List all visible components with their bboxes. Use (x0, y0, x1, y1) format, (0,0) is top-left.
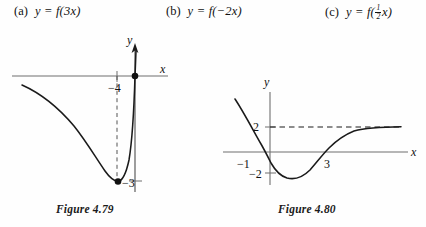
figure-4-80-panel: x y 2 −1 3 −2 (205, 60, 426, 200)
tick-label-minus-1: −1 (237, 157, 250, 171)
problem-lhs-c: y = (346, 5, 364, 19)
y-axis-label: y (263, 75, 270, 89)
tick-label-2: 2 (253, 120, 259, 134)
one-half-fraction: 12 (375, 4, 381, 20)
problem-label-c: (c) (325, 5, 339, 19)
tick-label-minus-4: −4 (108, 81, 121, 95)
y-axis-label: y (126, 33, 133, 47)
figure-4-80-graph: x y 2 −1 3 −2 (205, 60, 426, 200)
problem-expression-b: y = f(−2x) (188, 4, 242, 18)
problem-rhs-a: f(3x) (56, 4, 81, 18)
problem-rhs-c-suffix: x) (382, 5, 392, 19)
problem-expression-c: y = f(12x) (346, 5, 392, 19)
tick-label-3: 3 (324, 157, 330, 171)
x-axis-label: x (159, 62, 166, 76)
x-axis-label: x (410, 145, 417, 159)
problem-item-b: (b)y = f(−2x) (166, 4, 242, 18)
figure-4-79-graph: x y −4 −3 (0, 30, 200, 200)
origin-point-marker (132, 73, 139, 80)
fraction-denominator: 2 (375, 12, 381, 21)
problem-expression-a: y = f(3x) (35, 4, 81, 18)
problem-list: (a)y = f(3x) (b)y = f(−2x) (c)y = f(12x) (0, 0, 426, 26)
problem-label-a: (a) (14, 4, 28, 18)
figure-4-79-panel: x y −4 −3 (0, 30, 200, 200)
figure-4-79-caption: Figure 4.79 (56, 203, 114, 215)
problem-rhs-b: f(−2x) (209, 4, 242, 18)
problem-lhs-a: y = (35, 4, 53, 18)
problem-label-b: (b) (166, 4, 181, 18)
curve-f (22, 51, 136, 182)
problem-lhs-b: y = (188, 4, 206, 18)
problem-item-c: (c)y = f(12x) (325, 4, 392, 20)
fraction-numerator: 1 (375, 4, 381, 12)
tick-label-minus-3: −3 (122, 176, 135, 190)
figure-page: (a)y = f(3x) (b)y = f(−2x) (c)y = f(12x) (0, 0, 426, 227)
figure-4-80-caption: Figure 4.80 (278, 203, 336, 215)
minimum-point-marker (115, 178, 122, 185)
tick-label-minus-2: −2 (249, 167, 262, 181)
problem-rhs-c-prefix: f( (367, 5, 375, 19)
problem-item-a: (a)y = f(3x) (14, 4, 81, 18)
